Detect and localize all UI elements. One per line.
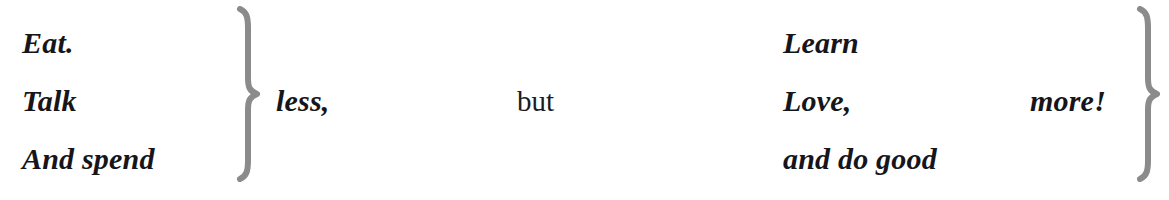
right-curly-brace-icon: [1134, 6, 1168, 182]
left-line-2: Talk: [22, 86, 77, 116]
aphorism-canvas: Eat. Talk And spend less, but Learn Love…: [0, 0, 1169, 200]
left-line-3: And spend: [22, 144, 155, 174]
right-line-1: Learn: [783, 28, 859, 58]
left-quantifier: less,: [276, 86, 330, 116]
conjunction-but: but: [517, 87, 554, 116]
right-line-3: and do good: [783, 144, 937, 174]
right-line-2: Love,: [783, 86, 851, 116]
left-line-1: Eat.: [22, 28, 74, 58]
right-quantifier: more!: [1030, 86, 1106, 116]
left-curly-brace-icon: [234, 6, 268, 182]
